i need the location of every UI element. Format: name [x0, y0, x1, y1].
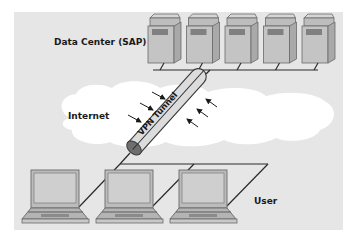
server-icon — [264, 14, 297, 63]
server-icon — [187, 14, 220, 63]
user-laptops — [22, 170, 237, 223]
server-icon — [302, 14, 335, 63]
laptop-icon — [170, 170, 237, 223]
data-center-label: Data Center (SAP) — [54, 37, 146, 47]
laptop-icon — [96, 170, 163, 223]
vpn-diagram: VPN Tunnel Data Center (SAP) Internet Us… — [0, 0, 355, 241]
server-icon — [148, 14, 181, 63]
user-label: User — [254, 196, 278, 206]
laptop-icon — [22, 170, 89, 223]
server-group — [148, 14, 335, 63]
internet-label: Internet — [68, 111, 110, 121]
server-icon — [225, 14, 258, 63]
